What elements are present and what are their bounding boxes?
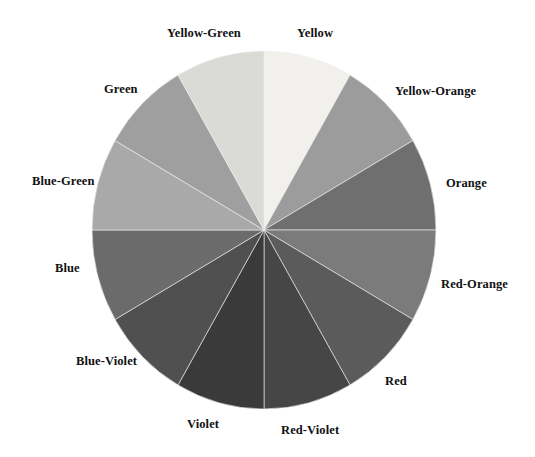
label-blue: Blue — [55, 261, 80, 275]
label-violet: Violet — [187, 417, 219, 431]
label-red-orange: Red-Orange — [441, 277, 508, 291]
color-wheel-figure: Yellow Yellow-Green Green Blue-Green Blu… — [0, 0, 535, 457]
label-yellow-orange: Yellow-Orange — [395, 84, 476, 98]
color-wheel-segments — [92, 51, 436, 409]
label-yellow: Yellow — [297, 26, 333, 40]
color-wheel-graphic — [0, 0, 535, 457]
label-orange: Orange — [446, 176, 487, 190]
label-red-violet: Red-Violet — [281, 423, 339, 437]
label-blue-green: Blue-Green — [32, 174, 95, 188]
label-blue-violet: Blue-Violet — [76, 354, 137, 368]
label-yellow-green: Yellow-Green — [167, 26, 241, 40]
label-red: Red — [385, 374, 407, 388]
label-green: Green — [104, 82, 138, 96]
